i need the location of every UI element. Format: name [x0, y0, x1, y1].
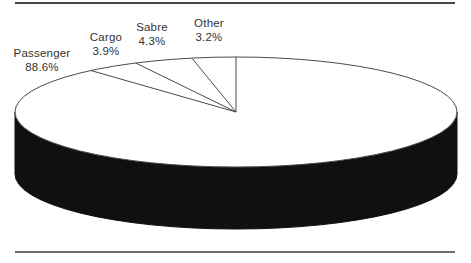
slice-name: Sabre: [136, 20, 168, 34]
slice-percent: 3.9%: [92, 44, 119, 58]
slice-name: Cargo: [90, 30, 122, 44]
bottom-rule: [15, 251, 455, 253]
slice-label-sabre: Sabre 4.3%: [122, 20, 182, 48]
slice-percent: 4.3%: [138, 34, 165, 48]
slice-name: Other: [194, 16, 224, 30]
slice-percent: 88.6%: [25, 60, 59, 74]
slice-label-passenger: Passenger 88.6%: [12, 46, 72, 74]
slice-label-other: Other 3.2%: [179, 16, 239, 44]
slice-name: Passenger: [14, 46, 71, 60]
pie-chart-figure: Passenger 88.6% Cargo 3.9% Sabre 4.3% Ot…: [0, 0, 471, 263]
slice-percent: 3.2%: [195, 30, 222, 44]
